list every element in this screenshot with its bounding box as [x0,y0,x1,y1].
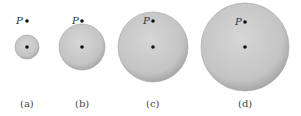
panel-b: P (b) [59,15,105,109]
center-dot-d [243,45,247,49]
panel-c: P (c) [118,12,188,109]
point-p-dot-d [243,20,247,24]
caption-b: (b) [75,98,89,109]
center-dot-c [151,45,155,49]
point-p-label-b: P [71,15,79,26]
point-p-label-c: P [142,15,150,26]
point-p-label-d: P [234,16,242,27]
caption-d: (d) [238,98,252,109]
point-p-dot-b [80,19,84,23]
panel-a: P (a) [15,15,39,109]
center-dot-a [25,45,29,49]
caption-c: (c) [146,98,160,109]
point-p-dot-c [151,19,155,23]
point-p-dot-a [25,19,29,23]
center-dot-b [80,45,84,49]
panel-d: P (d) [201,3,289,109]
point-p-label-a: P [15,15,23,26]
spheres-diagram: P (a) P (b) P (c) P (d) [0,0,301,116]
caption-a: (a) [20,98,34,109]
